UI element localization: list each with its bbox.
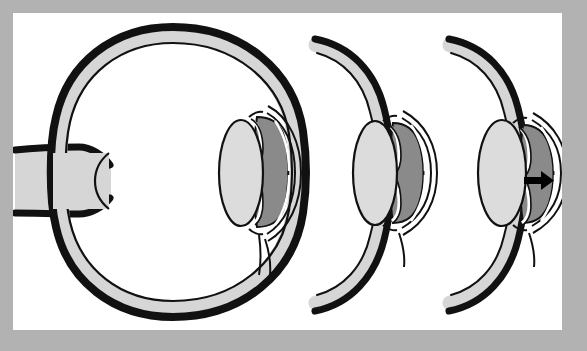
eye-anatomy-illustration	[13, 13, 562, 330]
figure-plate: Panel 1 - whole eye globe Panel 2 - ante…	[13, 13, 562, 330]
lens	[219, 120, 263, 226]
aqueous-flow-arrow-shaft	[524, 177, 543, 184]
lens-2	[353, 121, 397, 225]
lens-3	[478, 120, 526, 226]
figure-root: Panel 1 - whole eye globe Panel 2 - ante…	[0, 0, 587, 351]
